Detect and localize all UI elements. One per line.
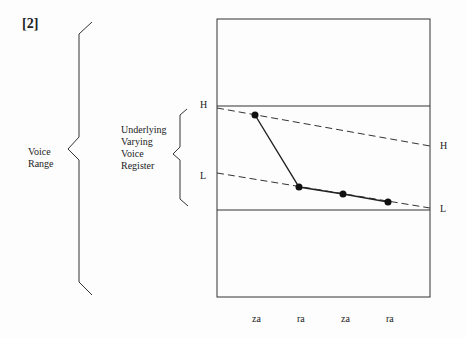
high-declination-line (217, 108, 430, 146)
voice-range-brace (68, 22, 92, 295)
pitch-point (252, 112, 259, 119)
pitch-contour (255, 115, 388, 202)
range-box (217, 19, 430, 297)
pitch-diagram (0, 0, 466, 338)
pitch-point (385, 199, 392, 206)
register-brace (173, 109, 188, 206)
pitch-point (340, 191, 347, 198)
pitch-point (296, 184, 303, 191)
